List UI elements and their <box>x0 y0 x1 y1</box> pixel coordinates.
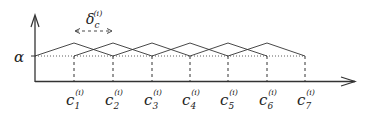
membership-diagram: α δc(i) c1(i) c2(i) c3(i) c4(i) c5(i) c6… <box>0 0 371 115</box>
alpha-label: α <box>14 48 24 66</box>
center-labels: c1(i) c2(i) c3(i) c4(i) c5(i) c6(i) c7(i… <box>66 88 315 111</box>
center-label-3: c3(i) <box>144 88 162 111</box>
membership-triangles <box>35 43 305 56</box>
center-label-5: c5(i) <box>220 88 238 111</box>
center-label-6: c6(i) <box>259 88 277 111</box>
center-label-2: c2(i) <box>105 88 123 111</box>
center-label-7: c7(i) <box>297 88 315 111</box>
center-label-1: c1(i) <box>66 88 84 111</box>
center-label-4: c4(i) <box>182 88 200 111</box>
center-markers <box>74 56 305 82</box>
delta-label: δc(i) <box>86 9 102 30</box>
